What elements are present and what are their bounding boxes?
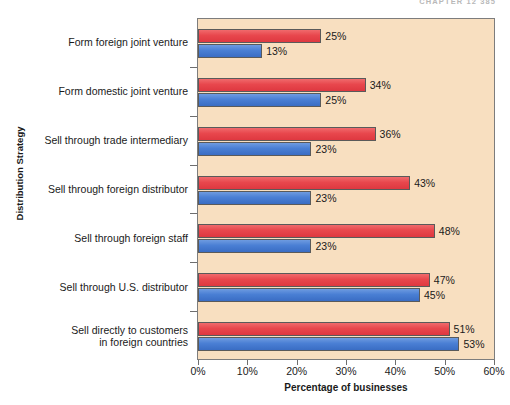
- category-label-line: Form foreign joint venture: [19, 36, 188, 48]
- y-axis-tick: [190, 165, 197, 166]
- bar-value-label: 23%: [315, 239, 336, 253]
- y-axis-tick: [190, 116, 197, 117]
- x-axis-tick-label: 0%: [178, 365, 218, 377]
- running-head: CHAPTER 12 385: [419, 0, 496, 4]
- x-axis-tick-label: 50%: [425, 365, 465, 377]
- y-axis-tick: [190, 311, 197, 312]
- category-label-line: Sell through trade intermediary: [19, 134, 188, 146]
- category-label-line: in foreign countries: [19, 336, 188, 348]
- y-axis-title: Distribution Strategy: [14, 119, 25, 229]
- category-axis-labels: Form foreign joint ventureForm domestic …: [0, 18, 197, 360]
- x-axis-tick-label: 10%: [227, 365, 267, 377]
- category-label-line: Sell directly to customers: [19, 324, 188, 336]
- bar-value-label: 25%: [325, 29, 346, 43]
- category-label-line: Sell through foreign distributor: [19, 183, 188, 195]
- bar-small-businesses: [198, 224, 435, 238]
- bar-micro-businesses: [198, 142, 311, 156]
- bar-value-label: 48%: [439, 224, 460, 238]
- category-label: Sell through U.S. distributor: [19, 281, 197, 293]
- bar-value-label: 45%: [424, 288, 445, 302]
- bar-small-businesses: [198, 322, 450, 336]
- x-axis: 0%10%20%30%40%50%60% Percentage of busin…: [197, 360, 495, 405]
- bar-value-label: 23%: [315, 142, 336, 156]
- chart-figure: CHAPTER 12 385 25%13%34%25%36%23%43%23%4…: [0, 0, 510, 405]
- category-label: Sell through trade intermediary: [19, 134, 197, 146]
- bar-micro-businesses: [198, 288, 420, 302]
- bar-small-businesses: [198, 176, 410, 190]
- y-axis-tick: [190, 213, 197, 214]
- bar-value-label: 51%: [454, 322, 475, 336]
- category-label: Form foreign joint venture: [19, 36, 197, 48]
- bar-value-label: 13%: [266, 44, 287, 58]
- y-axis-tick: [190, 262, 197, 263]
- bar-micro-businesses: [198, 337, 459, 351]
- category-label-line: Form domestic joint venture: [19, 85, 188, 97]
- category-label-line: Sell through foreign staff: [19, 232, 188, 244]
- bar-value-label: 34%: [370, 78, 391, 92]
- x-axis-tick-label: 30%: [326, 365, 366, 377]
- bar-value-label: 23%: [315, 191, 336, 205]
- category-label: Sell directly to customersin foreign cou…: [19, 324, 197, 348]
- bar-small-businesses: [198, 127, 376, 141]
- x-axis-tick-label: 40%: [375, 365, 415, 377]
- bar-micro-businesses: [198, 191, 311, 205]
- category-label: Sell through foreign staff: [19, 232, 197, 244]
- x-axis-tick-label: 20%: [277, 365, 317, 377]
- bar-value-label: 53%: [463, 337, 484, 351]
- bar-micro-businesses: [198, 44, 262, 58]
- y-axis-tick: [190, 67, 197, 68]
- bar-value-label: 43%: [414, 176, 435, 190]
- bar-value-label: 36%: [380, 127, 401, 141]
- bar-value-label: 47%: [434, 273, 455, 287]
- category-label: Sell through foreign distributor: [19, 183, 197, 195]
- x-axis-title: Percentage of businesses: [197, 382, 495, 393]
- bar-small-businesses: [198, 29, 321, 43]
- bar-small-businesses: [198, 78, 366, 92]
- bar-micro-businesses: [198, 239, 311, 253]
- plot-area: 25%13%34%25%36%23%43%23%48%23%47%45%51%5…: [197, 18, 495, 360]
- bar-small-businesses: [198, 273, 430, 287]
- category-label: Form domestic joint venture: [19, 85, 197, 97]
- bar-micro-businesses: [198, 93, 321, 107]
- bar-value-label: 25%: [325, 93, 346, 107]
- category-label-line: Sell through U.S. distributor: [19, 281, 188, 293]
- x-axis-tick-label: 60%: [474, 365, 510, 377]
